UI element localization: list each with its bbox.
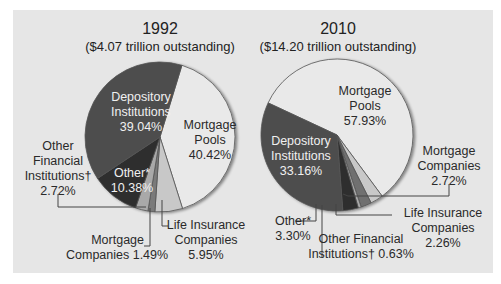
chart-subtitle-2010: ($14.20 trillion outstanding) [238, 39, 438, 54]
chart-title-2010: 2010 [238, 20, 438, 38]
label-1992-other-financial: OtherFinancialInstitutions†2.72% [22, 139, 94, 199]
chart-subtitle-1992: ($4.07 trillion outstanding) [60, 39, 260, 54]
label-2010-mortgage-companies: MortgageCompanies2.72% [408, 144, 490, 189]
label-1992-mortgage-companies: MortgageCompanies 1.49% [66, 233, 166, 263]
label-2010-depository: DepositoryInstitutions33.16% [256, 134, 346, 179]
chart-title-1992: 1992 [60, 20, 260, 38]
label-1992-mortgage-pools: MortgagePools40.42% [170, 118, 250, 163]
label-2010-other-financial: Other FinancialInstitutions† 0.63% [306, 232, 416, 262]
label-1992-life-insurance: Life InsuranceCompanies5.95% [166, 218, 246, 263]
label-2010-mortgage-pools: MortgagePools57.93% [320, 84, 410, 129]
label-1992-other: Other*10.38% [102, 166, 162, 196]
